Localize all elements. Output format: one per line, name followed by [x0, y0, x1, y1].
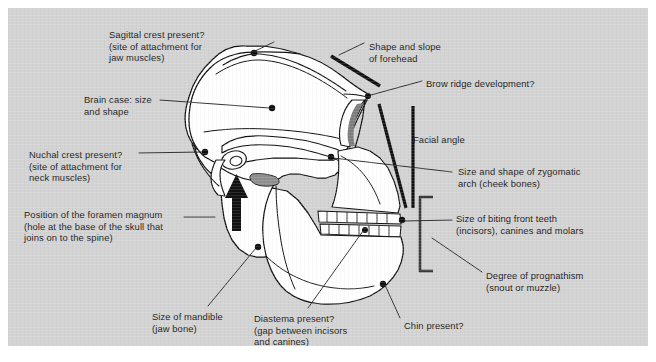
- label-forehead: Shape and slope of forehead: [369, 41, 441, 64]
- point-brow-ridge: [365, 93, 371, 99]
- label-foramen-magnum: Position of the foramen magnum (hole at …: [24, 209, 163, 244]
- point-zygomatic-arch: [328, 154, 334, 160]
- label-prognathism: Degree of prognathism (snout or muzzle): [486, 270, 583, 293]
- leader-prognathism: [432, 238, 482, 272]
- point-nuchal-crest: [202, 149, 208, 155]
- square-bracket-icon: [419, 196, 433, 272]
- label-mandible: Size of mandible (jaw bone): [152, 311, 223, 334]
- leader-forehead: [339, 43, 364, 55]
- label-nuchal-crest: Nuchal crest present? (site of attachmen…: [29, 149, 122, 184]
- leader-mandible: [208, 248, 256, 306]
- label-sagittal-crest: Sagittal crest present? (site of attachm…: [109, 29, 205, 64]
- upper-tooth-band: [318, 211, 401, 224]
- leader-chin: [385, 285, 400, 318]
- label-front-teeth: Size of biting front teeth (incisors), c…: [456, 213, 584, 236]
- label-chin: Chin present?: [404, 320, 464, 332]
- point-brain-case: [269, 105, 275, 111]
- figure-root: Sagittal crest present? (site of attachm…: [0, 0, 656, 362]
- label-diastema: Diastema present? (gap between incisors …: [254, 313, 347, 346]
- brain-case-dome: [189, 52, 368, 164]
- point-sagittal-crest: [251, 50, 257, 56]
- point-chin: [380, 281, 386, 287]
- label-facial-angle: Facial angle: [413, 134, 465, 146]
- skull-illustration: [185, 46, 403, 304]
- label-brain-case: Brain case: size and shape: [84, 94, 152, 117]
- upper-teeth-row: [318, 211, 401, 224]
- leader-nuchal-crest: [139, 152, 203, 153]
- label-zygomatic-arch: Size and shape of zygomatic arch (cheek …: [458, 166, 581, 189]
- point-front-teeth: [399, 217, 405, 223]
- point-foramen-magnum: [255, 244, 261, 250]
- point-diastema: [362, 227, 368, 233]
- illustration-panel: Sagittal crest present? (site of attachm…: [8, 8, 648, 346]
- label-brow-ridge: Brow ridge development?: [426, 78, 535, 90]
- leader-front-teeth: [405, 220, 452, 221]
